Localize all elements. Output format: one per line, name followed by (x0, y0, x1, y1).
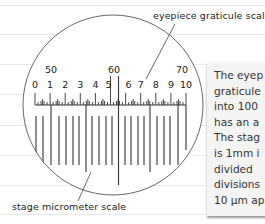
graticule-number: 1 (47, 79, 53, 90)
graticule-upper-number: 70 (176, 64, 188, 75)
note-line: graticule (214, 84, 265, 100)
stage-micrometer-label: stage micrometer scale (12, 201, 126, 212)
note-line: 10 µm ap (214, 193, 265, 209)
note-line: The eyep (214, 68, 265, 84)
graticule-number: 3 (77, 79, 83, 90)
graticule-number: 9 (168, 79, 174, 90)
graticule-scale-label: eyepiece graticule scale (153, 10, 265, 21)
graticule-upper-number: 60 (108, 64, 120, 75)
graticule-number: 8 (153, 79, 159, 90)
note-line: The stag (214, 130, 265, 146)
note-line: divisions (214, 177, 265, 193)
explanation-note: The eyep graticule into 100 has an a The… (207, 62, 265, 216)
note-line: divided (214, 162, 265, 178)
graticule-number: 6 (126, 79, 132, 90)
note-line: has an a (214, 115, 265, 131)
graticule-number: 4 (92, 79, 98, 90)
graticule-number: 7 (138, 79, 144, 90)
graticule-number: 0 (32, 79, 38, 90)
graticule-upper-number: 50 (45, 64, 57, 75)
note-line: is 1mm i (214, 146, 265, 162)
graticule-number: 2 (62, 79, 68, 90)
graticule-number: 5 (105, 79, 111, 90)
note-line: into 100 (214, 99, 265, 115)
graticule-number: 10 (180, 79, 192, 90)
